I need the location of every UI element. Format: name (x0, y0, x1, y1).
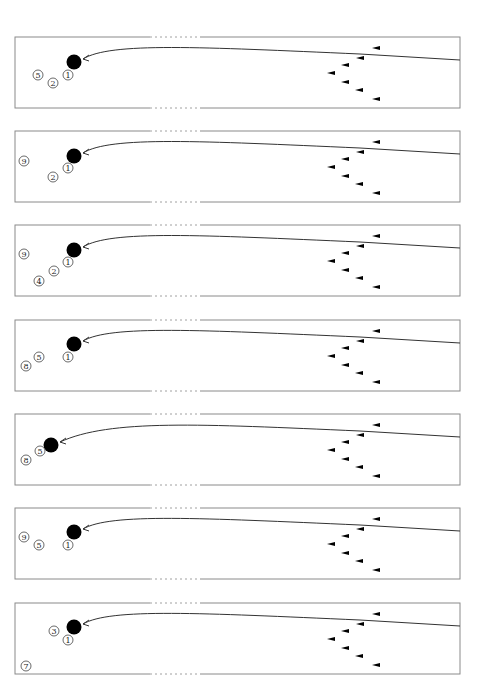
arrowhead-icon (83, 55, 89, 61)
trajectory-line (83, 330, 460, 343)
marker-wedge-icon (341, 457, 349, 461)
lane-border (15, 603, 460, 674)
lane-panel: 9214 (15, 225, 460, 296)
ball-icon (67, 525, 82, 540)
marker-wedge-icon (341, 157, 349, 161)
marker-wedge-icon (372, 380, 380, 384)
arrowhead-icon (83, 149, 89, 155)
marker-wedge-icon (355, 276, 363, 280)
number-label: 1 (65, 353, 70, 362)
marker-wedge-icon (356, 527, 364, 531)
numbered-marker: 5 (33, 70, 43, 80)
number-label: 1 (65, 541, 70, 550)
marker-wedge-icon (341, 534, 349, 538)
marker-wedge-icon (341, 174, 349, 178)
numbered-marker: 5 (34, 540, 44, 550)
marker-wedge-icon (372, 329, 380, 333)
number-label: 3 (51, 627, 56, 636)
numbered-marker: 1 (63, 257, 73, 267)
marker-wedge-icon (356, 56, 364, 60)
trajectory-line (60, 425, 460, 442)
marker-wedge-icon (327, 354, 335, 358)
numbered-marker: 9 (19, 532, 29, 542)
trajectory-line (83, 142, 460, 155)
numbered-marker: 4 (34, 276, 44, 286)
marker-wedge-icon (372, 517, 380, 521)
arrowhead-icon (83, 337, 89, 343)
marker-wedge-icon (327, 542, 335, 546)
numbered-marker: 1 (63, 70, 73, 80)
marker-wedge-icon (341, 346, 349, 350)
arrowhead-icon (83, 243, 89, 249)
ball-icon (67, 55, 82, 70)
marker-wedge-icon (372, 612, 380, 616)
numbered-marker: 8 (21, 361, 31, 371)
lane-border (15, 37, 460, 108)
numbered-marker: 7 (21, 661, 31, 671)
number-label: 9 (21, 250, 26, 259)
number-label: 1 (65, 258, 70, 267)
number-label: 2 (50, 173, 55, 182)
marker-wedge-icon (355, 654, 363, 658)
marker-wedge-icon (341, 629, 349, 633)
trajectory-line (83, 48, 460, 61)
numbered-marker: 9 (19, 156, 29, 166)
ball-icon (44, 438, 59, 453)
marker-wedge-icon (372, 423, 380, 427)
lane-panel: 951 (15, 508, 460, 579)
marker-wedge-icon (341, 440, 349, 444)
numbered-marker: 1 (63, 163, 73, 173)
marker-wedge-icon (372, 97, 380, 101)
marker-wedge-icon (355, 88, 363, 92)
numbered-marker: 1 (63, 540, 73, 550)
marker-wedge-icon (355, 559, 363, 563)
lane-border (15, 320, 460, 391)
number-label: 7 (23, 662, 28, 671)
number-label: 2 (50, 79, 55, 88)
number-label: 1 (65, 164, 70, 173)
number-label: 5 (36, 541, 41, 550)
marker-wedge-icon (372, 46, 380, 50)
marker-wedge-icon (341, 251, 349, 255)
number-label: 8 (23, 456, 28, 465)
numbered-marker: 8 (21, 455, 31, 465)
marker-wedge-icon (356, 433, 364, 437)
numbered-marker: 1 (63, 635, 73, 645)
arrowhead-icon (83, 620, 89, 626)
marker-wedge-icon (356, 150, 364, 154)
ball-icon (67, 337, 82, 352)
number-label: 9 (21, 157, 26, 166)
trajectory-line (83, 613, 460, 626)
lane-border (15, 225, 460, 296)
lane-diagram-figure: 521921921458158951317 (0, 0, 488, 695)
lane-border (15, 131, 460, 202)
marker-wedge-icon (341, 363, 349, 367)
number-label: 1 (65, 71, 70, 80)
numbered-marker: 2 (48, 172, 58, 182)
marker-wedge-icon (341, 551, 349, 555)
number-label: 2 (51, 267, 56, 276)
lane-border (15, 414, 460, 485)
marker-wedge-icon (372, 191, 380, 195)
numbered-marker: 1 (63, 352, 73, 362)
marker-wedge-icon (356, 339, 364, 343)
marker-wedge-icon (327, 71, 335, 75)
number-label: 5 (37, 447, 42, 456)
lane-panel: 317 (15, 603, 460, 674)
numbered-marker: 2 (48, 78, 58, 88)
number-label: 9 (21, 533, 26, 542)
marker-wedge-icon (372, 474, 380, 478)
marker-wedge-icon (341, 646, 349, 650)
marker-wedge-icon (372, 285, 380, 289)
lane-panel: 921 (15, 131, 460, 202)
marker-wedge-icon (372, 140, 380, 144)
marker-wedge-icon (327, 165, 335, 169)
lane-panel: 58 (15, 414, 460, 485)
number-label: 1 (65, 636, 70, 645)
marker-wedge-icon (372, 568, 380, 572)
marker-wedge-icon (356, 244, 364, 248)
ball-icon (67, 620, 82, 635)
marker-wedge-icon (372, 234, 380, 238)
number-label: 4 (36, 277, 41, 286)
marker-wedge-icon (355, 465, 363, 469)
